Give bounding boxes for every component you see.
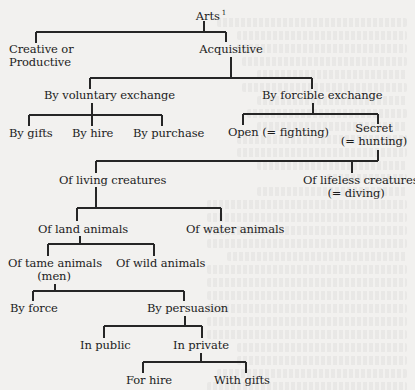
- node-label: Of water animals: [186, 223, 278, 236]
- node-label: Of land animals: [38, 223, 124, 236]
- tree-node-open: Open (= fighting): [228, 126, 323, 139]
- tree-node-tame: Of tame animals(men): [8, 257, 100, 283]
- node-label: (= diving): [303, 187, 409, 200]
- node-label: In private: [173, 339, 231, 352]
- tree-node-land: Of land animals: [38, 223, 124, 236]
- node-label: By purchase: [133, 127, 201, 140]
- tree-node-lifeless: Of lifeless creatures(= diving): [303, 174, 409, 200]
- tree-node-purchase: By purchase: [133, 127, 201, 140]
- tree-node-public: In public: [80, 339, 132, 352]
- tree-node-voluntary: By voluntary exchange: [42, 89, 177, 102]
- tree-node-gifts: By gifts: [9, 127, 57, 140]
- node-label: By hire: [72, 127, 116, 140]
- node-label: Productive: [9, 56, 89, 69]
- node-label: By persuasion: [147, 302, 223, 315]
- tree-node-withgifts: With gifts: [214, 374, 270, 387]
- tree-node-acquisitive: Acquisitive: [196, 43, 266, 56]
- tree-node-private: In private: [173, 339, 231, 352]
- node-label: Acquisitive: [196, 43, 266, 56]
- tree-node-creative: Creative orProductive: [9, 43, 89, 69]
- tree-node-arts: Arts1: [191, 7, 231, 23]
- tree-node-forhire: For hire: [126, 374, 176, 387]
- node-label: (= hunting): [340, 135, 408, 148]
- footnote-marker: 1: [222, 9, 226, 17]
- tree-node-wild: Of wild animals: [116, 257, 202, 270]
- tree-node-secret: Secret(= hunting): [340, 122, 408, 148]
- tree-node-persuasion: By persuasion: [147, 302, 223, 315]
- node-label: Arts1: [191, 7, 231, 23]
- tree-node-forcible: By forcible exchange: [262, 89, 374, 102]
- node-label: For hire: [126, 374, 176, 387]
- node-label: By gifts: [9, 127, 57, 140]
- node-label: Open (= fighting): [228, 126, 323, 139]
- node-label: Of living creatures: [59, 174, 159, 187]
- node-label: Of wild animals: [116, 257, 202, 270]
- node-label: With gifts: [214, 374, 270, 387]
- tree-node-water: Of water animals: [186, 223, 278, 236]
- book-page: Arts1Creative orProductiveAcquisitiveBy …: [0, 0, 415, 390]
- node-label: By forcible exchange: [262, 89, 374, 102]
- node-label: In public: [80, 339, 132, 352]
- tree-node-force: By force: [10, 302, 62, 315]
- tree-node-hire: By hire: [72, 127, 116, 140]
- tree-node-living: Of living creatures: [59, 174, 159, 187]
- node-label: By voluntary exchange: [42, 89, 177, 102]
- node-label: (men): [8, 270, 100, 283]
- node-label: By force: [10, 302, 62, 315]
